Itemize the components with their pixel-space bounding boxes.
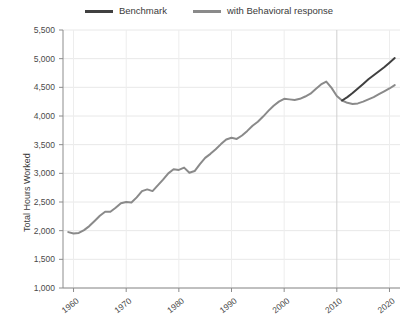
y-axis-tick-labels: 1,0001,5002,0002,5003,0003,5004,0004,500… [34, 25, 56, 293]
x-tick-label: 1970 [112, 296, 133, 316]
x-tick-label: 2010 [323, 296, 344, 316]
x-tick-label: 2000 [270, 296, 291, 316]
chart-svg: 1,0001,5002,0002,5003,0003,5004,0004,500… [0, 0, 418, 321]
x-tick-label: 1980 [165, 296, 186, 316]
y-tick-label: 5,500 [34, 25, 56, 35]
y-tick-label: 1,000 [34, 283, 56, 293]
y-tick-label: 5,000 [34, 54, 56, 64]
y-tick-label: 3,000 [34, 168, 56, 178]
x-tick-label: 1960 [60, 296, 81, 316]
y-tick-label: 4,000 [34, 111, 56, 121]
y-tick-label: 1,500 [34, 254, 56, 264]
chart-container: Benchmark with Behavioral response Total… [0, 0, 418, 321]
x-tick-label: 1990 [218, 296, 239, 316]
y-tick-label: 2,000 [34, 226, 56, 236]
vertical-gridlines [74, 30, 390, 288]
y-tick-label: 3,500 [34, 140, 56, 150]
x-tick-label: 2020 [376, 296, 397, 316]
plot-area: 1,0001,5002,0002,5003,0003,5004,0004,500… [0, 0, 418, 321]
y-tick-label: 2,500 [34, 197, 56, 207]
y-tick-label: 4,500 [34, 82, 56, 92]
x-axis-tick-labels: 1960197019801990200020102020 [60, 296, 397, 316]
series-line-benchmark [342, 58, 395, 100]
axis-tick-marks [59, 30, 389, 292]
